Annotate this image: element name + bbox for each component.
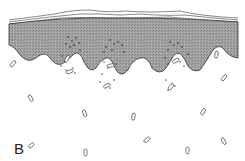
diagram-canvas	[0, 0, 245, 161]
skin-diagram: B	[0, 0, 245, 161]
panel-label: B	[14, 141, 24, 156]
epidermis	[9, 18, 238, 74]
